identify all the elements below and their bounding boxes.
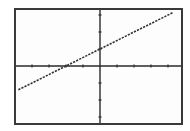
function-line [18, 13, 173, 90]
graph-plot [0, 0, 190, 131]
